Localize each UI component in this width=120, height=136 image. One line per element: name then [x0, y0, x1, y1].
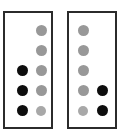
left-panel-dot-r3c2-gray	[36, 65, 47, 76]
right-panel-dot-r5c2-black	[97, 105, 108, 116]
right-panel-dot-r1c1-gray	[78, 25, 89, 36]
left-panel	[3, 11, 53, 129]
right-panel-dot-r2c1-gray	[78, 45, 89, 56]
right-panel-dot-r4c1-gray	[78, 85, 89, 96]
right-panel-dot-r4c2-black	[97, 85, 108, 96]
right-panel	[67, 11, 117, 129]
left-panel-dot-r2c2-gray	[36, 45, 47, 56]
left-panel-dot-r3c1-black	[17, 65, 28, 76]
left-panel-dot-r5c2-gray	[36, 106, 46, 116]
left-panel-dot-r4c1-black	[17, 85, 28, 96]
left-panel-dot-r5c1-black	[17, 105, 28, 116]
two-panel-dot-figure	[0, 0, 120, 136]
left-panel-dot-r4c2-gray	[36, 85, 47, 96]
left-panel-dot-r1c2-gray	[36, 25, 47, 36]
right-panel-dot-r5c1-gray	[78, 106, 88, 116]
right-panel-dot-r3c1-gray	[78, 65, 89, 76]
